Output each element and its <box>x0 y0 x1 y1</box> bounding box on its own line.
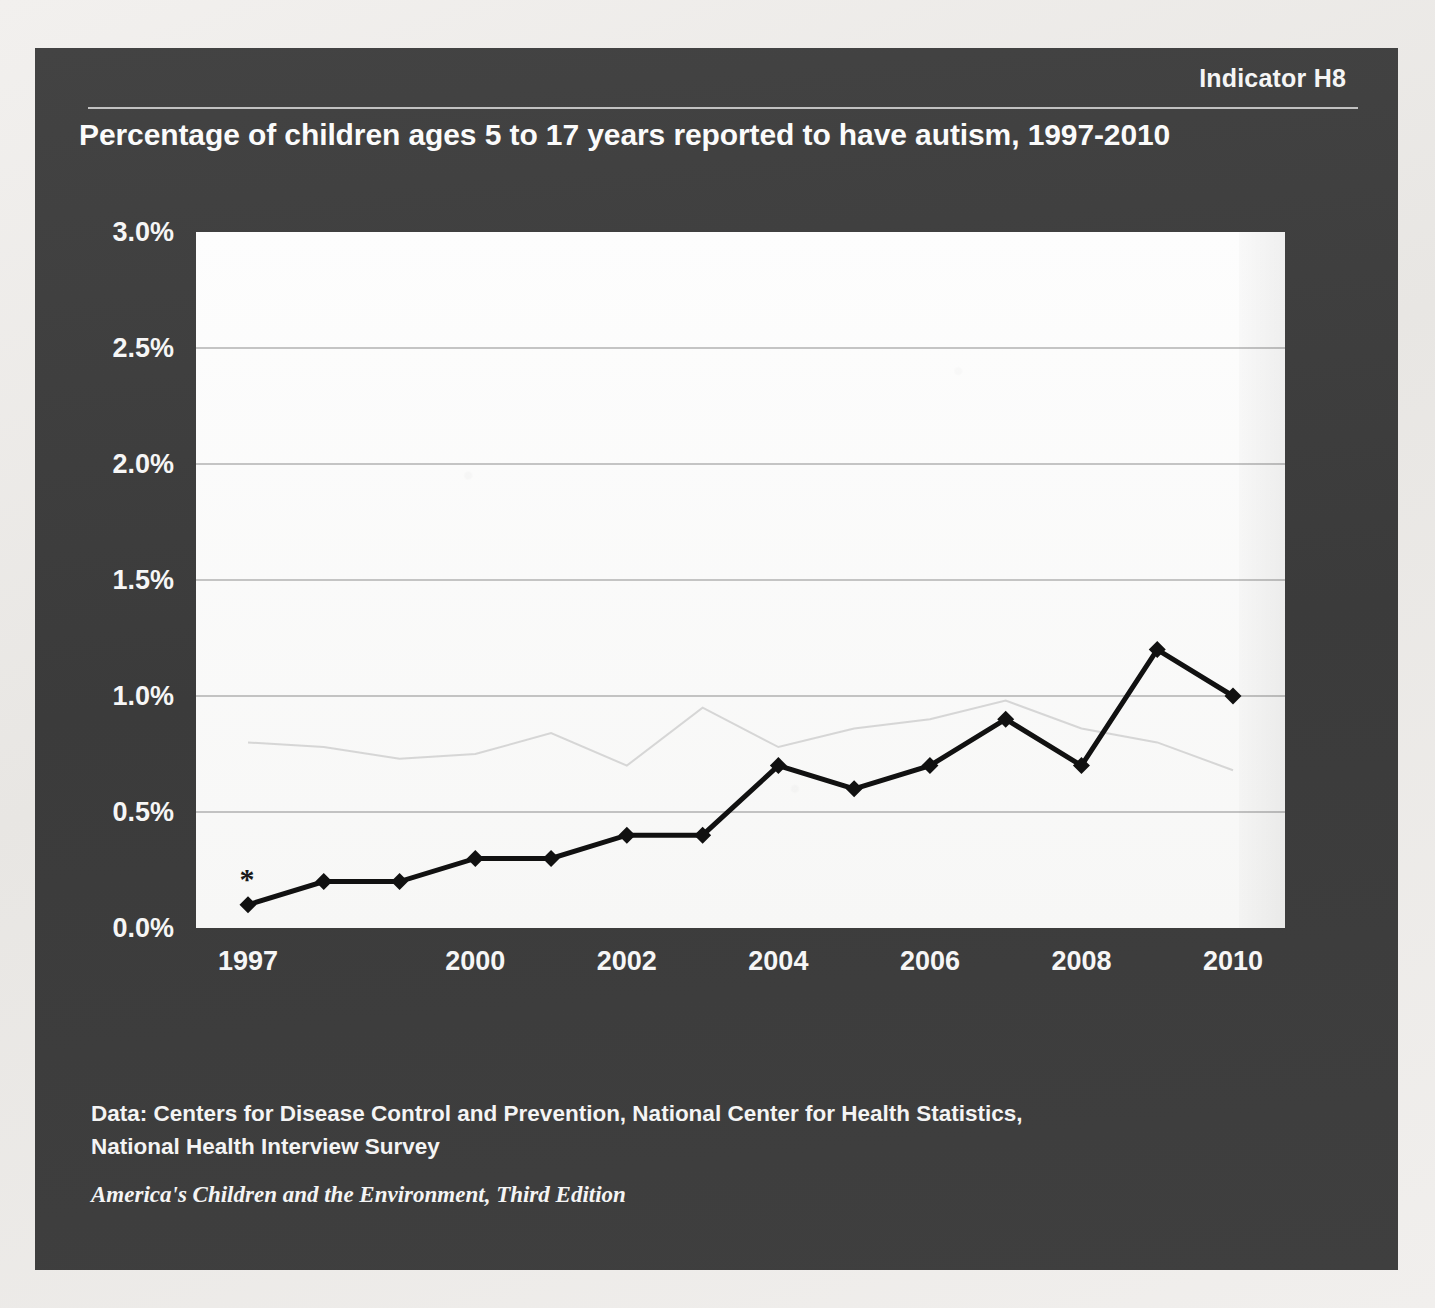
y-axis-tick-label: 0.5% <box>34 797 174 828</box>
footer-source-line-2: National Health Interview Survey <box>91 1130 1368 1163</box>
y-axis-tick-label: 1.0% <box>34 681 174 712</box>
y-axis-tick-label: 0.0% <box>34 913 174 944</box>
y-axis-tick-label: 2.5% <box>34 333 174 364</box>
x-axis-tick-label: 2008 <box>1051 946 1111 977</box>
x-axis-tick-label: 2004 <box>748 946 808 977</box>
x-axis-tick-label: 2006 <box>900 946 960 977</box>
y-axis-tick-label: 3.0% <box>34 217 174 248</box>
y-axis-tick-label: 1.5% <box>34 565 174 596</box>
data-series-autism <box>196 232 1285 928</box>
plot-area <box>196 232 1285 928</box>
x-axis-tick-label: 2002 <box>597 946 657 977</box>
x-axis-tick-label: 2010 <box>1203 946 1263 977</box>
footer-note: Data: Centers for Disease Control and Pr… <box>91 1097 1368 1212</box>
x-axis-tick-label: 2000 <box>445 946 505 977</box>
x-axis-tick-label: 1997 <box>218 946 278 977</box>
line-chart: 0.0%0.5%1.0%1.5%2.0%2.5%3.0% 19972000200… <box>35 48 1398 1270</box>
y-axis-tick-label: 2.0% <box>34 449 174 480</box>
footer-source-line-1: Data: Centers for Disease Control and Pr… <box>91 1097 1368 1130</box>
asterisk-footnote-mark: * <box>240 862 255 896</box>
chart-panel: Indicator H8 Percentage of children ages… <box>35 48 1398 1270</box>
scan-shading-band <box>1239 232 1285 928</box>
footer-edition: America's Children and the Environment, … <box>91 1178 1368 1212</box>
